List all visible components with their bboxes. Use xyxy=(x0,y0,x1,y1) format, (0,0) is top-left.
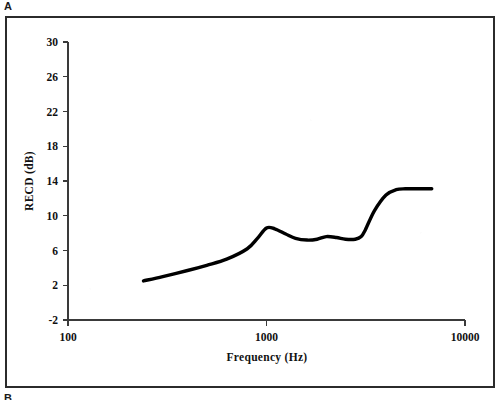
panel-label-b: B xyxy=(4,393,12,400)
y-tick-label: 14 xyxy=(47,175,59,187)
y-tick-label: -2 xyxy=(48,314,58,326)
x-tick-label: 10000 xyxy=(451,331,480,343)
y-tick-label: 30 xyxy=(47,36,59,48)
y-tick-label: 10 xyxy=(47,210,59,222)
figure-panel: A 30262218141062-2 100100010000 Frequenc… xyxy=(0,0,501,401)
data-series-group xyxy=(143,189,431,281)
x-axis-title: Frequency (Hz) xyxy=(227,351,308,364)
data-curve-0 xyxy=(143,189,431,281)
x-axis: 100100010000 xyxy=(59,320,479,343)
x-tick-label: 1000 xyxy=(255,331,278,343)
y-axis-title: RECD (dB) xyxy=(23,151,36,211)
y-tick-label: 26 xyxy=(47,71,59,83)
y-axis: 30262218141062-2 xyxy=(47,36,69,326)
y-tick-label: 18 xyxy=(47,140,59,152)
chart-plot: 30262218141062-2 100100010000 Frequency … xyxy=(0,0,501,401)
y-tick-label: 6 xyxy=(52,245,58,257)
y-tick-label: 2 xyxy=(52,279,58,291)
x-tick-label: 100 xyxy=(59,331,77,343)
y-tick-label: 22 xyxy=(47,106,59,118)
